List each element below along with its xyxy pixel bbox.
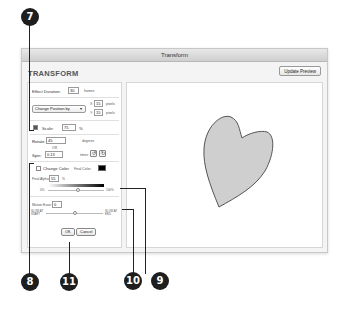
callout-9-line bbox=[120, 188, 146, 189]
divider bbox=[30, 134, 119, 135]
heart-preview-shape bbox=[127, 83, 324, 249]
dialog-heading: TRANSFORM bbox=[28, 69, 79, 78]
rotate-ccw-icon[interactable]: ↺ bbox=[90, 150, 97, 157]
x-input[interactable]: 15 bbox=[94, 100, 103, 107]
spin-label: Spin: bbox=[32, 153, 42, 158]
transform-dialog: Transform TRANSFORM Update Preview Effec… bbox=[21, 48, 328, 253]
divider bbox=[30, 161, 119, 162]
callout-badge-8: 8 bbox=[21, 273, 39, 291]
rotate-cw-icon[interactable]: ↻ bbox=[99, 150, 106, 157]
preview-panel bbox=[126, 82, 323, 248]
change-color-checkbox[interactable] bbox=[36, 166, 41, 171]
rotate-label: Rotate: bbox=[32, 139, 46, 144]
callout-9-line bbox=[145, 188, 146, 274]
ease-slider-thumb[interactable] bbox=[73, 211, 77, 215]
callout-badge-11: 11 bbox=[60, 273, 78, 291]
final-color-swatch[interactable] bbox=[98, 165, 106, 171]
y-label: Y: bbox=[90, 111, 93, 115]
final-alpha-unit: % bbox=[62, 177, 65, 181]
change-color-label: Change Color bbox=[43, 166, 69, 171]
chevron-down-icon: ▾ bbox=[80, 106, 82, 112]
alpha-slider-thumb[interactable] bbox=[76, 188, 80, 192]
cancel-button[interactable]: Cancel bbox=[76, 228, 96, 236]
callout-badge-7: 7 bbox=[21, 8, 39, 26]
alpha-gradient-bar bbox=[48, 184, 104, 187]
slow-at-end-label: SLOW AT END bbox=[105, 210, 119, 216]
position-mode-value: Change Position by bbox=[35, 106, 70, 111]
slow-at-start-label: SLOW AT START bbox=[31, 210, 45, 216]
spin-unit: times bbox=[80, 153, 88, 157]
effect-duration-input[interactable]: 30 bbox=[68, 87, 79, 94]
x-unit: pixels bbox=[106, 102, 115, 106]
y-unit: pixels bbox=[106, 111, 115, 115]
position-mode-select[interactable]: Change Position by ▾ bbox=[32, 105, 86, 113]
effect-duration-label: Effect Duration: bbox=[32, 89, 61, 94]
divider bbox=[30, 196, 119, 197]
ok-button[interactable]: OK bbox=[61, 228, 75, 236]
x-label: X: bbox=[90, 102, 93, 106]
callout-10-line bbox=[133, 209, 134, 274]
callout-badge-9: 9 bbox=[151, 272, 169, 290]
callout-11-line bbox=[69, 242, 70, 274]
scale-unit: % bbox=[79, 126, 83, 131]
motion-ease-input[interactable]: 0 bbox=[52, 201, 62, 208]
divider bbox=[30, 120, 119, 121]
alpha-max-label: 100% bbox=[106, 188, 114, 192]
callout-badge-10: 10 bbox=[124, 272, 142, 290]
alpha-min-label: 0% bbox=[40, 188, 44, 192]
or-label: OR bbox=[52, 146, 57, 150]
callout-8-line bbox=[29, 163, 30, 275]
scale-label: Scale: bbox=[42, 126, 54, 131]
y-input[interactable]: 15 bbox=[94, 109, 103, 116]
final-alpha-input[interactable]: 55 bbox=[49, 175, 59, 182]
scale-input[interactable]: 75 bbox=[62, 124, 76, 131]
window-title: Transform bbox=[22, 49, 327, 62]
dialog-header: TRANSFORM Update Preview bbox=[26, 65, 323, 79]
callout-8-line bbox=[29, 163, 34, 164]
rotate-input[interactable]: 45 bbox=[46, 137, 66, 144]
final-alpha-label: Final Alpha: bbox=[32, 177, 50, 181]
motion-ease-label: Motion Ease: bbox=[32, 203, 52, 207]
divider bbox=[30, 97, 119, 98]
callout-7-line bbox=[29, 130, 34, 131]
rotate-unit: degrees bbox=[82, 139, 94, 143]
final-color-label: Final Color: bbox=[74, 167, 91, 171]
effect-duration-unit: frames bbox=[84, 89, 94, 93]
spin-input[interactable]: 0.13 bbox=[45, 151, 63, 158]
update-preview-button[interactable]: Update Preview bbox=[279, 66, 321, 76]
callout-7-line bbox=[29, 24, 30, 130]
settings-panel: Effect Duration: 30 frames Change Positi… bbox=[27, 82, 122, 248]
